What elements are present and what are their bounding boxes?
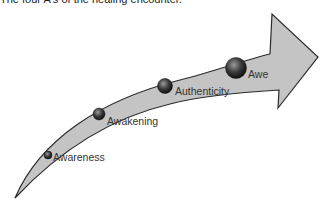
stage-marker-awe [226,58,247,79]
arrow-shape [15,14,318,198]
stage-label-authenticity: Authenticity [175,85,229,97]
curved-arrow-diagram [0,0,325,208]
stage-marker-authenticity [158,79,173,94]
stage-marker-awareness [44,151,52,159]
stage-label-awareness: Awareness [53,151,105,163]
stage-label-awakening: Awakening [107,115,158,127]
stage-label-awe: Awe [248,68,268,80]
stage-marker-awakening [93,108,105,120]
